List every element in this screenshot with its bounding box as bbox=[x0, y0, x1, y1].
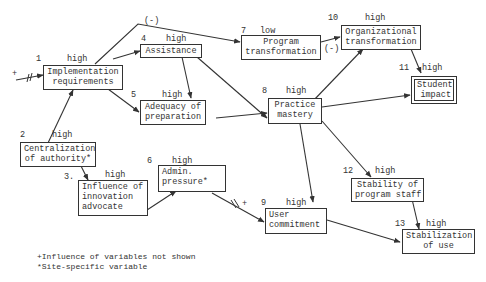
node-5-number: 5 bbox=[131, 90, 136, 100]
node-3-level: high bbox=[105, 170, 125, 180]
node-10-number: 10 bbox=[328, 13, 338, 23]
node-2-level: high bbox=[52, 130, 72, 140]
sign-plus-external: + bbox=[12, 69, 17, 79]
node-student-impact: Student impact bbox=[414, 79, 454, 101]
node-6-number: 6 bbox=[147, 156, 152, 166]
node-user-commitment: User commitment bbox=[265, 208, 327, 234]
node-adequacy-of-preparation: Adequacy of preparation bbox=[140, 100, 206, 125]
node-10-level: high bbox=[365, 13, 385, 23]
node-5-level: high bbox=[162, 90, 182, 100]
edge-8-11 bbox=[322, 95, 410, 107]
node-3-number: 3. bbox=[64, 172, 74, 182]
edge-3-6 bbox=[147, 191, 176, 210]
legend: +Influence of variables not shown *Site-… bbox=[37, 252, 195, 272]
node-1-number: 1 bbox=[36, 54, 41, 64]
node-9-level: high bbox=[286, 198, 306, 208]
edge-7-10 bbox=[321, 37, 340, 42]
node-admin-pressure: Admin. pressure* bbox=[158, 165, 226, 192]
edge-2-3 bbox=[81, 166, 88, 180]
node-8-number: 8 bbox=[262, 86, 267, 96]
sign-plus-6-9: + bbox=[242, 199, 247, 209]
edge-5-8 bbox=[216, 113, 267, 118]
node-practice-mastery: Practice mastery bbox=[268, 98, 322, 124]
node-program-transformation: Program transformation bbox=[241, 35, 321, 60]
node-implementation-requirements: Implementation requirements bbox=[43, 65, 123, 90]
edge-4-8 bbox=[197, 57, 267, 118]
sign-minus-1-7: (-) bbox=[144, 16, 159, 26]
node-centralization-of-authority: Centralization of authority* bbox=[20, 142, 96, 167]
node-13-number: 13 bbox=[395, 219, 405, 229]
node-1-level: high bbox=[67, 54, 87, 64]
node-4-number: 4 bbox=[141, 34, 146, 44]
node-4-level: high bbox=[166, 34, 186, 44]
node-13-level: high bbox=[426, 219, 446, 229]
legend-line-influence: +Influence of variables not shown bbox=[37, 252, 195, 262]
edge-6-9 bbox=[212, 193, 264, 222]
edge-4-5 bbox=[182, 57, 191, 98]
node-organizational-transformation: Organizational transformation bbox=[341, 25, 421, 50]
edge-10-11 bbox=[411, 49, 421, 73]
sign-minus-7-10: (-) bbox=[324, 44, 339, 54]
edge-8-9 bbox=[300, 124, 313, 202]
legend-line-site-specific: *Site-specific variable bbox=[37, 262, 195, 272]
node-12-number: 12 bbox=[343, 166, 353, 176]
node-11-number: 11 bbox=[399, 63, 409, 73]
edge-9-13 bbox=[327, 220, 400, 242]
node-assistance: Assistance bbox=[140, 44, 202, 58]
node-8-level: high bbox=[286, 86, 306, 96]
node-11-level: high bbox=[422, 63, 442, 73]
edge-1-4 bbox=[113, 51, 140, 59]
node-9-number: 9 bbox=[261, 198, 266, 208]
node-2-number: 2 bbox=[20, 130, 25, 140]
edge-12-13 bbox=[412, 199, 419, 229]
node-stability-of-program-staff: Stability of program staff bbox=[351, 178, 424, 202]
node-stabilization-of-use: Stabilization of use bbox=[402, 229, 475, 254]
node-12-level: high bbox=[375, 166, 395, 176]
edge-external-1 bbox=[16, 75, 43, 80]
node-influence-of-innovation-advocate: Influence of innovation advocate bbox=[78, 180, 148, 216]
